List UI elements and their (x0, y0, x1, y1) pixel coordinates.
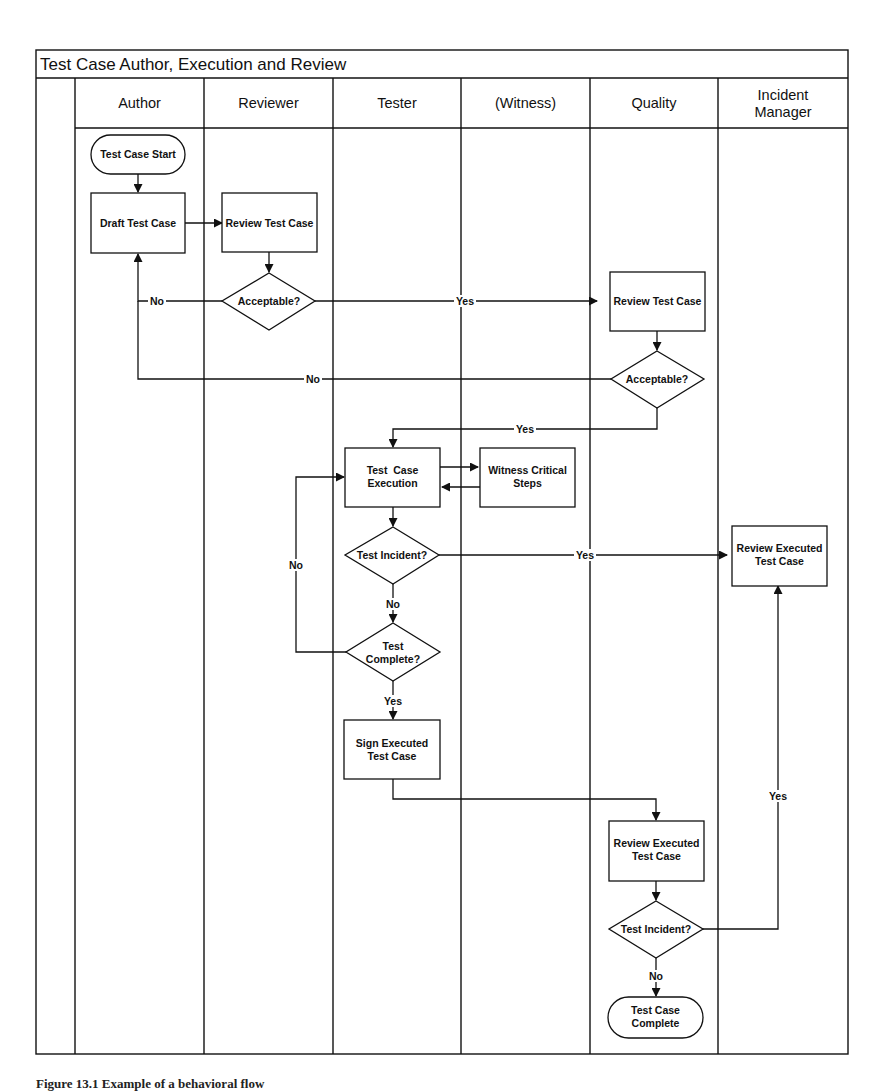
edge-label-no-quality: No (306, 373, 320, 385)
svg-text:Test Case: Test Case (368, 750, 417, 762)
svg-text:Review Test Case: Review Test Case (226, 217, 314, 229)
lane-header-witness: (Witness) (495, 95, 556, 111)
lane-header-quality: Quality (631, 95, 677, 111)
node-test-incident-tester: Test Incident? (345, 527, 439, 584)
edge-label-no-test-complete: No (289, 559, 303, 571)
edge-label-yes-test-complete: Yes (384, 695, 402, 707)
node-acceptable-quality: Acceptable? (611, 351, 704, 408)
svg-text:Test Case: Test Case (631, 1004, 680, 1016)
svg-text:Review Executed: Review Executed (614, 837, 700, 849)
node-draft-test-case: Draft Test Case (91, 193, 185, 253)
lane-headers: Author Reviewer Tester (Witness) Quality… (118, 87, 812, 120)
edge-label-yes-quality: Yes (516, 423, 534, 435)
edge-label-yes-test-incident: Yes (576, 549, 594, 561)
svg-text:Review Test Case: Review Test Case (614, 295, 702, 307)
svg-text:Acceptable?: Acceptable? (626, 373, 688, 385)
svg-text:Complete?: Complete? (366, 653, 420, 665)
svg-text:Test: Test (383, 640, 404, 652)
edge-label-yes-reviewer: Yes (456, 295, 474, 307)
lane-header-author: Author (118, 95, 161, 111)
lane-header-tester: Tester (377, 95, 417, 111)
svg-text:Witness Critical: Witness Critical (488, 464, 567, 476)
node-test-complete: Test Complete? (346, 623, 440, 681)
svg-text:Acceptable?: Acceptable? (238, 295, 300, 307)
diagram-title: Test Case Author, Execution and Review (40, 55, 347, 74)
node-review-test-case-quality: Review Test Case (610, 272, 705, 331)
svg-text:Steps: Steps (513, 477, 542, 489)
svg-text:Execution: Execution (367, 477, 417, 489)
figure-caption: Figure 13.1 Example of a behavioral flow (36, 1076, 264, 1092)
node-review-executed-test-case-im: Review Executed Test Case (732, 526, 827, 586)
node-test-case-start: Test Case Start (91, 135, 185, 174)
svg-text:Test Incident?: Test Incident? (621, 923, 691, 935)
svg-text:Test Case Start: Test Case Start (100, 148, 176, 160)
node-test-incident-quality: Test Incident? (609, 901, 703, 958)
edge-label-yes-quality-incident: Yes (769, 790, 787, 802)
node-witness-critical-steps: Witness Critical Steps (480, 448, 575, 507)
edge-label-no-reviewer: No (150, 295, 164, 307)
svg-text:Complete: Complete (632, 1017, 680, 1029)
edge-label-no-quality-incident: No (649, 970, 663, 982)
node-review-test-case-reviewer: Review Test Case (222, 193, 317, 252)
svg-text:Test Case: Test Case (755, 555, 804, 567)
node-acceptable-reviewer: Acceptable? (222, 273, 315, 330)
svg-text:Draft Test Case: Draft Test Case (100, 217, 176, 229)
svg-text:Test Case: Test Case (367, 464, 419, 476)
edge-label-no-test-incident: No (386, 598, 400, 610)
node-sign-executed-test-case: Sign Executed Test Case (344, 720, 440, 779)
node-test-case-execution: Test Case Execution (345, 448, 440, 507)
svg-text:Test Case: Test Case (632, 850, 681, 862)
lane-header-reviewer: Reviewer (238, 95, 299, 111)
svg-text:Test Incident?: Test Incident? (357, 549, 427, 561)
lane-header-incident-manager-line2: Manager (754, 104, 811, 120)
lane-header-incident-manager-line1: Incident (758, 87, 809, 103)
svg-text:Review Executed: Review Executed (737, 542, 823, 554)
node-test-case-complete: Test Case Complete (608, 997, 703, 1038)
node-review-executed-test-case-quality: Review Executed Test Case (609, 821, 704, 881)
svg-text:Sign Executed: Sign Executed (356, 737, 428, 749)
